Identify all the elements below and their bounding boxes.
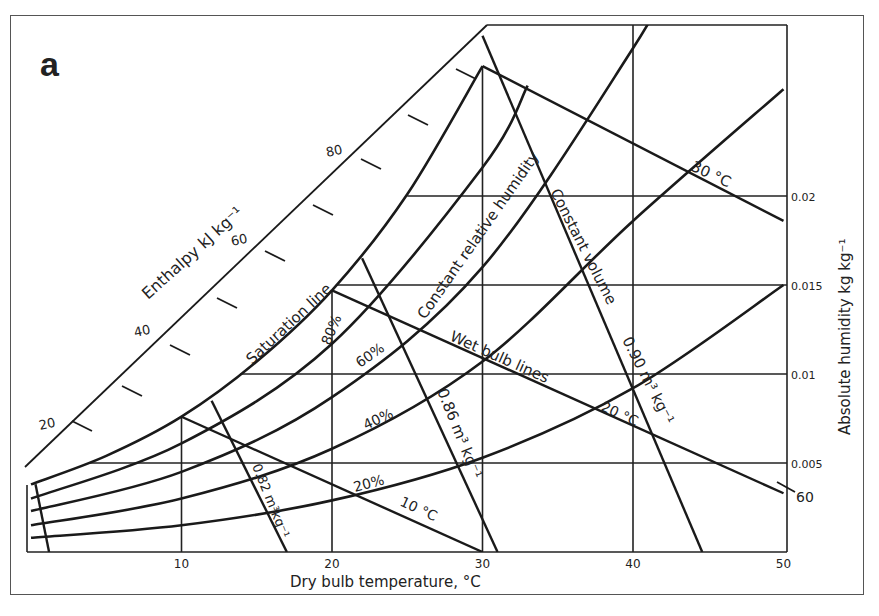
y-tick-label: 0.015 (791, 280, 823, 293)
enthalpy-tick (122, 386, 142, 396)
rh-80-label: 80% (318, 312, 344, 347)
rh-60-label: 60% (353, 339, 388, 370)
rh-curve (31, 66, 483, 484)
enthalpy-tick (265, 251, 285, 261)
20c-wet-bulb-label: 20 °C (599, 398, 641, 429)
x-tick-label: 40 (625, 557, 640, 571)
chart-labels: 10203040500.0050.010.0150.0220406080Enth… (38, 142, 854, 591)
enthalpy-tick-label: 80 (325, 142, 344, 160)
x-tick-label: 50 (776, 557, 791, 571)
enthalpy-right-label: 60 (796, 489, 814, 505)
y-tick-label: 0.02 (791, 191, 816, 204)
enthalpy-tick (217, 298, 237, 308)
enthalpy-tick-label: 20 (38, 415, 57, 433)
enthalpy-tick (408, 115, 428, 125)
y-tick-label: 0.005 (791, 458, 823, 471)
enthalpy-tick-label: 40 (133, 322, 152, 340)
y-axis-title: Absolute humidity kg kg⁻¹ (836, 239, 854, 435)
rh-curves (31, 0, 784, 538)
x-tick-label: 30 (475, 557, 490, 571)
y-tick-label: 0.01 (791, 369, 816, 382)
enthalpy-tick (170, 345, 190, 355)
enthalpy-tick (361, 159, 381, 169)
x-tick-label: 20 (324, 557, 339, 571)
enthalpy-tick (313, 205, 333, 215)
rh-40-label: 40% (361, 405, 396, 433)
x-tick-label: 10 (174, 557, 189, 571)
enthalpy-tick (72, 421, 92, 431)
enthalpy-tick-label: 60 (230, 231, 249, 249)
rh-20-label: 20% (352, 471, 386, 495)
enthalpy-tick (456, 69, 476, 79)
wet-bulb-label: Wet bulb lines (447, 327, 552, 387)
x-axis-title: Dry bulb temperature, °C (290, 573, 481, 591)
constant-volume-label: Constant volume (546, 186, 620, 308)
10c-wet-bulb-label: 10 °C (398, 493, 440, 524)
enthalpy-axis-label: Enthalpy kJ kg⁻¹ (138, 203, 247, 303)
30c-wet-bulb-label: 30 °C (688, 157, 734, 191)
psychrometric-chart: 10203040500.0050.010.0150.0220406080Enth… (0, 0, 879, 616)
